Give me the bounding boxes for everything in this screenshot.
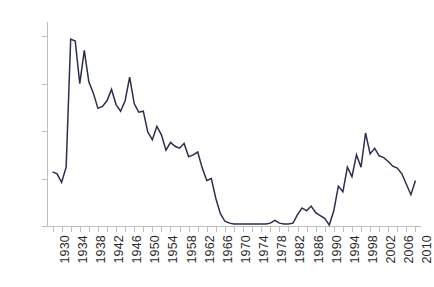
x-axis-tick [252,227,253,232]
x-axis-tick [307,227,308,232]
x-axis-tick [343,227,344,232]
x-axis-tick [216,227,217,232]
x-axis-tick [180,227,181,232]
x-axis-tick [270,227,271,232]
x-axis-tick-label: 2002 [384,235,398,264]
x-axis-tick [53,227,54,232]
x-axis-tick [370,227,371,232]
x-axis-tick [170,227,171,232]
plot-area [48,22,420,226]
x-axis-tick [397,227,398,232]
x-axis-tick-label: 1954 [166,235,180,264]
x-axis-tick [134,227,135,232]
x-axis-tick [261,227,262,232]
x-axis-tick [334,227,335,232]
x-axis-tick-label: 1986 [312,235,326,264]
x-axis-tick [143,227,144,232]
x-axis-tick-label: 2010 [420,235,434,264]
x-axis-tick-label: 1966 [221,235,235,264]
x-axis-tick [198,227,199,232]
x-axis-tick [161,227,162,232]
x-axis-tick [361,227,362,232]
x-axis-tick-label: 2006 [402,235,416,264]
x-axis-tick [288,227,289,232]
x-axis-tick-label: 1942 [112,235,126,264]
x-axis-tick [107,227,108,232]
x-axis-tick-label: 1946 [130,235,144,264]
series-line [48,22,420,226]
x-axis-tick [379,227,380,232]
x-axis-tick [62,227,63,232]
x-axis-tick [116,227,117,232]
x-axis-tick [152,227,153,232]
y-axis-tick [42,226,48,227]
x-axis-tick [207,227,208,232]
x-axis-tick-label: 1994 [348,235,362,264]
x-axis-tick [279,227,280,232]
x-axis-tick [243,227,244,232]
x-axis-tick-label: 1978 [275,235,289,264]
x-axis-tick [316,227,317,232]
x-axis-tick-label: 1982 [293,235,307,264]
x-axis-tick-label: 1974 [257,235,271,264]
x-axis-tick-label: 1990 [330,235,344,264]
x-axis-tick-label: 1938 [94,235,108,264]
x-axis-tick [80,227,81,232]
x-axis-tick [406,227,407,232]
x-axis-tick [352,227,353,232]
x-axis-tick [298,227,299,232]
x-axis-tick-label: 1930 [58,235,72,264]
x-axis-tick [225,227,226,232]
x-axis-tick-label: 1998 [366,235,380,264]
x-axis-tick-label: 1958 [185,235,199,264]
x-axis-tick [125,227,126,232]
x-axis-tick-label: 1950 [148,235,162,264]
x-axis-tick [189,227,190,232]
x-axis-tick [234,227,235,232]
x-axis-tick [98,227,99,232]
x-axis-tick [89,227,90,232]
x-axis-tick [325,227,326,232]
series-path [53,39,416,225]
x-axis-tick [71,227,72,232]
x-axis-tick-label: 1934 [76,235,90,264]
x-axis-tick-label: 1970 [239,235,253,264]
x-axis-tick-label: 1962 [203,235,217,264]
x-axis-tick [415,227,416,232]
x-axis-tick [388,227,389,232]
